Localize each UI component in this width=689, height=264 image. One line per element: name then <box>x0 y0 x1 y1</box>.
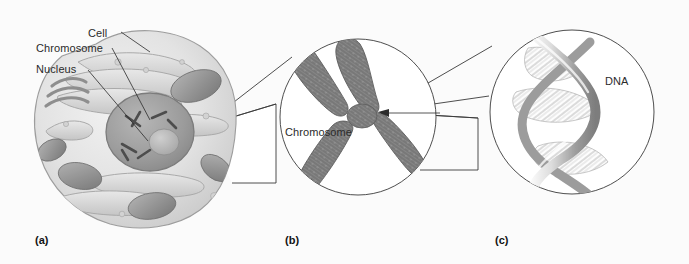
label-nucleus: Nucleus <box>36 63 76 75</box>
leader-line-cell <box>121 32 150 52</box>
label-cell: Cell <box>88 27 107 39</box>
leader-line-chromosome <box>112 48 150 120</box>
panel-label-a: (a) <box>35 234 48 246</box>
biology-figure: Cell Chromosome Nucleus Chromosome DNA (… <box>0 0 689 264</box>
panel-label-b: (b) <box>285 234 299 246</box>
label-dna: DNA <box>605 75 629 87</box>
centromere-pointer <box>378 109 440 117</box>
label-chromosome-cell: Chromosome <box>36 42 103 54</box>
panel-label-c: (c) <box>495 234 508 246</box>
leader-line-nucleus <box>88 70 148 141</box>
label-chromosome-panel-b: Chromosome <box>285 126 352 138</box>
